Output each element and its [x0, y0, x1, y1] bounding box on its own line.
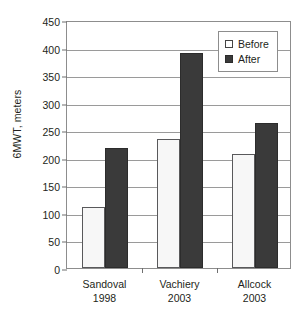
y-tick-label: 100: [42, 209, 60, 221]
x-category-label: Vachiery2003: [159, 277, 199, 305]
y-tick-label: 400: [42, 44, 60, 56]
bar-chart: 6MWT, meters 050100150200250300350400450…: [0, 0, 308, 320]
x-category-label-line1: Vachiery: [159, 278, 199, 290]
legend-label: After: [238, 53, 260, 65]
legend-item-after[interactable]: After: [225, 52, 269, 66]
x-category-label-line1: Allcock: [238, 278, 271, 290]
y-tick-label: 150: [42, 181, 60, 193]
chart-legend: BeforeAfter: [218, 31, 278, 72]
bar-before[interactable]: [157, 139, 180, 269]
bar-before[interactable]: [82, 207, 105, 268]
x-tick-mark: [142, 268, 143, 273]
x-category-label-line2: 1998: [83, 291, 127, 305]
filled-square-icon: [225, 55, 233, 63]
y-tick-label: 350: [42, 71, 60, 83]
x-category-label: Allcock2003: [238, 277, 271, 305]
y-tick-label: 300: [42, 99, 60, 111]
x-category-label-line2: 2003: [159, 291, 199, 305]
y-tick-label: 450: [42, 16, 60, 28]
white-square-icon: [225, 40, 233, 48]
bar-before[interactable]: [232, 154, 255, 268]
x-category-label-line2: 2003: [238, 291, 271, 305]
x-category-label: Sandoval1998: [83, 277, 127, 305]
y-tick-label: 250: [42, 126, 60, 138]
bar-after[interactable]: [180, 53, 203, 268]
y-tick-mark: [62, 270, 67, 271]
legend-item-before[interactable]: Before: [225, 37, 269, 51]
bar-after[interactable]: [105, 148, 128, 268]
y-axis-title: 6MWT, meters: [11, 74, 23, 174]
y-tick-label: 0: [54, 264, 60, 276]
y-tick-label: 50: [48, 236, 60, 248]
legend-label: Before: [238, 38, 269, 50]
x-tick-mark: [217, 268, 218, 273]
bar-group: [67, 22, 142, 268]
bar-after[interactable]: [255, 123, 278, 268]
y-tick-label: 200: [42, 154, 60, 166]
x-category-label-line1: Sandoval: [83, 278, 127, 290]
bar-group: [142, 22, 217, 268]
